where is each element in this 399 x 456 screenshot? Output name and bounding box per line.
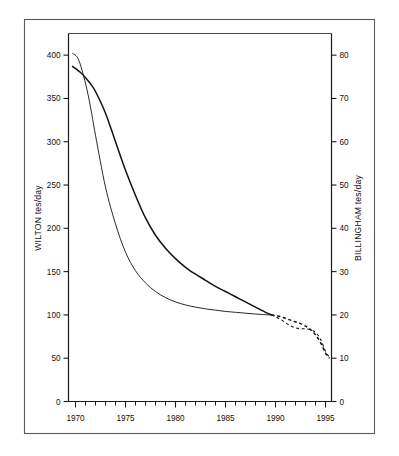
figure-container: 197019751980198519901995 050100150200250…: [0, 0, 399, 456]
y-axis-left-title: WILTON tes/day: [33, 185, 43, 251]
y-tick-label-left: 0: [56, 398, 61, 407]
y-tick-label-left: 150: [47, 268, 61, 277]
x-tick-label: 1990: [266, 414, 285, 423]
x-tick-label: 1985: [216, 414, 235, 423]
y-tick-label-left: 400: [47, 51, 61, 60]
line-chart: 197019751980198519901995 050100150200250…: [0, 0, 399, 456]
x-tick-label: 1995: [316, 414, 335, 423]
x-tick-label: 1975: [116, 414, 135, 423]
y-tick-label-left: 350: [47, 94, 61, 103]
y-tick-label-left: 50: [51, 354, 61, 363]
y-tick-label-right: 60: [340, 138, 350, 147]
y-tick-label-left: 100: [47, 311, 61, 320]
y-tick-label-right: 80: [340, 51, 350, 60]
y-axis-right-title: BILLINGHAM tes/day: [353, 175, 363, 261]
y-tick-label-left: 200: [47, 224, 61, 233]
y-tick-label-right: 40: [340, 224, 350, 233]
x-tick-label: 1980: [166, 414, 185, 423]
y-tick-label-left: 300: [47, 138, 61, 147]
y-tick-label-left: 250: [47, 181, 61, 190]
x-tick-label: 1970: [66, 414, 85, 423]
y-tick-label-right: 10: [340, 354, 350, 363]
y-tick-label-right: 30: [340, 268, 350, 277]
y-tick-label-right: 50: [340, 181, 350, 190]
y-tick-label-right: 20: [340, 311, 350, 320]
y-tick-label-right: 0: [340, 398, 345, 407]
y-tick-label-right: 70: [340, 94, 350, 103]
